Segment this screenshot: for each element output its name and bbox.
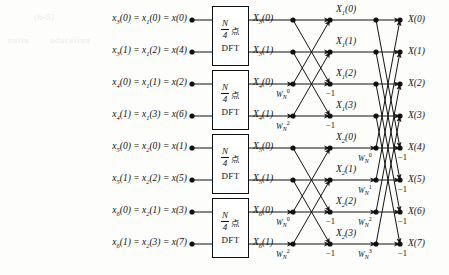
- output-label-6: X(6): [408, 207, 425, 217]
- stage3-twiddle-1: WN1: [358, 184, 372, 196]
- stage2-input-node-0: [290, 17, 295, 22]
- output-label-0: X(0): [408, 15, 425, 25]
- stage3-input-node-0: [373, 17, 378, 22]
- output-label-5: X(5): [408, 175, 425, 185]
- stage2-twiddle-0: WN0: [276, 88, 290, 100]
- input-label-7: x6(1) = x2(3) = x(7): [112, 238, 187, 249]
- input-node-6: [189, 209, 194, 214]
- stage3-minus-one-3: −1: [398, 248, 407, 258]
- stage2-output-label-4: X2(0): [336, 133, 356, 144]
- stage2-input-node-3: [290, 113, 295, 118]
- input-node-1: [189, 49, 194, 54]
- stage2-output-node-7: [327, 241, 332, 246]
- stage2-minus-one-0: −1: [326, 88, 335, 98]
- input-node-0: [189, 17, 194, 22]
- stage2-output-node-4: [327, 145, 332, 150]
- stage2-output-node-1: [327, 49, 332, 54]
- stage3-twiddle-3: WN3: [358, 248, 372, 260]
- output-node-7: [397, 241, 402, 246]
- stage3-input-node-1: [373, 49, 378, 54]
- stage2-twiddle-3: WN2: [276, 248, 290, 260]
- stage3-twiddle-0: WN0: [358, 152, 372, 164]
- output-label-4: X(4): [408, 143, 425, 153]
- stage2-output-node-0: [327, 17, 332, 22]
- output-node-0: [397, 17, 402, 22]
- stage3-input-node-4: [373, 145, 378, 150]
- stage2-twiddle-2: WN0: [276, 216, 290, 228]
- input-node-2: [189, 81, 194, 86]
- output-label-2: X(2): [408, 79, 425, 89]
- stage2-minus-one-2: −1: [326, 216, 335, 226]
- stage3-minus-one-0: −1: [398, 152, 407, 162]
- stage2-output-label-3: X1(3): [336, 101, 356, 112]
- input-label-5: x5(1) = x2(2) = x(5): [112, 174, 187, 185]
- stage2-output-label-0: X1(0): [336, 5, 356, 16]
- stage2-output-label-6: X2(2): [336, 197, 356, 208]
- stage3-input-node-6: [373, 209, 378, 214]
- stage1-output-label-2: X4(0): [253, 78, 273, 89]
- stage2-minus-one-3: −1: [326, 248, 335, 258]
- dft-box-line1: N4点: [221, 147, 240, 168]
- dft-box-line1: N4点: [221, 19, 240, 40]
- stage2-input-node-7: [290, 241, 295, 246]
- stage2-input-node-6: [290, 209, 295, 214]
- stage1-output-label-1: X3(1): [253, 46, 273, 57]
- fft-butterfly-figure: (b-5)nutiuoducaiiun N4点DFTN4点DFTN4点DFTN4…: [0, 0, 449, 275]
- stage2-minus-one-1: −1: [326, 120, 335, 130]
- stage3-minus-one-1: −1: [398, 184, 407, 194]
- stage2-output-node-2: [327, 81, 332, 86]
- stage1-output-label-5: X5(1): [253, 174, 273, 185]
- output-node-5: [397, 177, 402, 182]
- stage2-output-node-6: [327, 209, 332, 214]
- input-node-7: [189, 241, 194, 246]
- input-node-3: [189, 113, 194, 118]
- input-node-4: [189, 145, 194, 150]
- stage2-output-node-3: [327, 113, 332, 118]
- stage3-twiddle-2: WN2: [358, 216, 372, 228]
- dian-character: 点: [231, 88, 240, 100]
- dian-character: 点: [231, 152, 240, 164]
- input-label-1: x3(1) = x1(2) = x(4): [112, 46, 187, 57]
- stage2-twiddle-1: WN2: [276, 120, 290, 132]
- stage1-output-label-0: X3(0): [253, 14, 273, 25]
- stage2-input-node-4: [290, 145, 295, 150]
- dft-box-1: N4点DFT: [212, 70, 249, 130]
- stage3-input-node-3: [373, 113, 378, 118]
- stage2-input-node-1: [290, 49, 295, 54]
- dft-box-3: N4点DFT: [212, 198, 249, 258]
- stage3-minus-one-2: −1: [398, 216, 407, 226]
- stage2-input-node-5: [290, 177, 295, 182]
- stage3-input-node-2: [373, 81, 378, 86]
- input-label-2: x4(0) = x1(1) = x(2): [112, 78, 187, 89]
- dft-box-line2: DFT: [222, 107, 240, 117]
- dft-box-2: N4点DFT: [212, 134, 249, 194]
- dft-box-0: N4点DFT: [212, 6, 249, 66]
- output-node-6: [397, 209, 402, 214]
- input-label-0: x3(0) = x1(0) = x(0): [112, 14, 187, 25]
- n-over-4-fraction: N4: [221, 19, 229, 40]
- n-over-4-fraction: N4: [221, 147, 229, 168]
- stage2-output-node-5: [327, 177, 332, 182]
- stage2-output-label-5: X2(1): [336, 165, 356, 176]
- dft-box-line1: N4点: [221, 83, 240, 104]
- stage2-output-label-7: X2(3): [336, 229, 356, 240]
- stage1-output-label-7: X6(1): [253, 238, 273, 249]
- stage2-output-label-2: X1(2): [336, 69, 356, 80]
- n-over-4-fraction: N4: [221, 83, 229, 104]
- input-node-5: [189, 177, 194, 182]
- dian-character: 点: [231, 24, 240, 36]
- n-over-4-fraction: N4: [221, 211, 229, 232]
- input-label-4: x5(0) = x2(0) = x(1): [112, 142, 187, 153]
- stage3-input-node-5: [373, 177, 378, 182]
- dft-box-line2: DFT: [222, 171, 240, 181]
- stage3-input-node-7: [373, 241, 378, 246]
- dian-character: 点: [231, 216, 240, 228]
- dft-box-line1: N4点: [221, 211, 240, 232]
- dft-box-line2: DFT: [222, 235, 240, 245]
- output-label-3: X(3): [408, 111, 425, 121]
- output-node-2: [397, 81, 402, 86]
- output-label-7: X(7): [408, 239, 425, 249]
- output-node-4: [397, 145, 402, 150]
- output-label-1: X(1): [408, 47, 425, 57]
- stage2-output-label-1: X1(1): [336, 37, 356, 48]
